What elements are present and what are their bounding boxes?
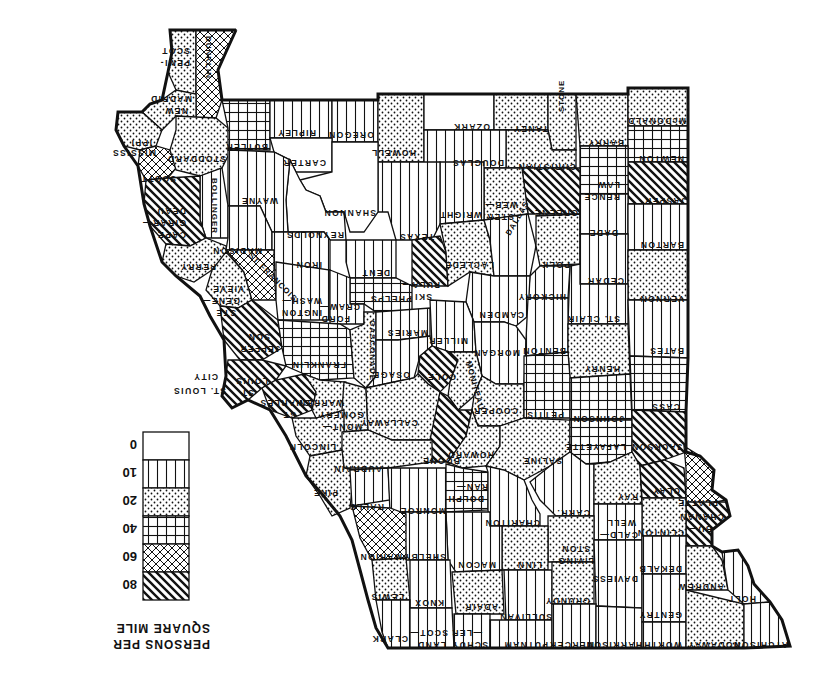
label-reynolds: REYNOLDS — [286, 230, 344, 240]
label-ran: RAN— — [455, 482, 488, 492]
label-maries: MARIES — [387, 328, 428, 338]
county-vernon[interactable] — [628, 250, 688, 300]
label-st-clair: ST. CLAIR — [567, 314, 620, 324]
label-clinton: CLINTON — [637, 528, 684, 538]
label-st-2: ST — [282, 410, 296, 420]
label-dade: DADE — [588, 228, 618, 238]
legend-swatch-80 — [143, 572, 189, 600]
label-st-1: ST — [240, 388, 254, 398]
label-stoddard: STODDARD — [167, 154, 226, 164]
label-vieve: VIEVE — [212, 284, 244, 294]
label-law: LAW— — [587, 180, 620, 190]
label-daviess: DAVIESS — [592, 574, 639, 584]
label-pike: PIKE — [313, 488, 338, 498]
county-stoddard[interactable] — [170, 116, 230, 176]
label-laclede: LACLEDE — [444, 260, 494, 270]
label-barton: BARTON — [639, 240, 684, 250]
label-iron: IRON — [295, 260, 322, 270]
county-greene[interactable] — [522, 168, 580, 214]
legend-title-line2: SQUARE MILE — [116, 621, 210, 635]
label-grundy: GRUNDY — [545, 596, 590, 606]
label-perry: PERRY — [180, 262, 216, 272]
label-scot-2: SCOT— — [409, 628, 448, 638]
label-ston: STON — [561, 544, 590, 554]
label-chariton: CHARITON — [484, 518, 540, 528]
label-lincoln: LINCOLN — [288, 442, 336, 452]
label-clay: CLAY — [652, 486, 680, 496]
county-pettis[interactable] — [524, 352, 570, 418]
label-howard: HOWARD — [447, 450, 494, 460]
county-jackson[interactable] — [632, 410, 686, 466]
label-dent: DENT — [361, 268, 390, 278]
label-osage: OSAGE — [372, 370, 410, 380]
county-franklin[interactable] — [278, 320, 354, 380]
label-nodaway: NODAWAY — [687, 640, 740, 650]
legend-label-40: 40 — [123, 521, 137, 536]
label-monroe: MONROE — [399, 506, 446, 516]
label-st-louis-city: ST. LOUIS — [173, 386, 226, 396]
label-wright: WRIGHT — [439, 210, 482, 220]
county-monroe[interactable] — [388, 468, 446, 512]
legend-swatch-20 — [143, 488, 189, 516]
legend-swatch-10 — [143, 460, 189, 488]
legend: 0 10 20 40 60 80 SQUARE MILE PERSONS PER — [112, 432, 210, 651]
label-rence: RENCE — [583, 192, 620, 202]
label-greene: GREENE — [534, 208, 578, 218]
label-macon: MACON — [457, 560, 496, 570]
label-ler: —LER — [451, 628, 482, 638]
label-scott: SCOTT — [140, 174, 176, 184]
label-louis: LOUIS — [235, 376, 268, 386]
label-ralls: RALLS — [349, 502, 384, 512]
label-cass: CASS — [651, 402, 680, 412]
label-andrew: ANDREW — [677, 582, 724, 592]
label-jeffer: JEFFER — [239, 344, 280, 354]
label-miller: MILLER — [428, 336, 468, 346]
legend-swatch-0 — [143, 432, 189, 460]
label-schuy: SCHUY — [451, 640, 488, 650]
county-pulaski[interactable] — [412, 236, 448, 286]
county-johnson[interactable] — [570, 374, 632, 420]
legend-label-80: 80 — [123, 577, 137, 592]
label-putnam: PUTNAM — [503, 640, 548, 650]
label-stone: STONE — [557, 80, 566, 112]
county-livingston[interactable] — [548, 516, 594, 562]
label-ington: INGTON — [281, 308, 322, 318]
label-marion: MARION — [359, 552, 402, 562]
label-craw: CRAW— — [319, 302, 360, 312]
label-linn: LINN — [517, 560, 542, 570]
label-shelby: SHELBY — [403, 552, 446, 562]
county-marion[interactable] — [352, 506, 406, 560]
label-cedar: CEDAR — [587, 276, 624, 286]
label-morgan: MORGAN — [473, 348, 520, 358]
label-benton: BENTON — [522, 346, 566, 356]
label-bollinger: BOLLINGER — [210, 178, 219, 234]
label-oregon: OREGON — [328, 130, 374, 140]
label-henry: HENRY — [584, 364, 620, 374]
label-city: CITY — [193, 372, 218, 382]
label-christian: CHRISTIAN — [517, 162, 576, 172]
label-gomery: GOMERY — [318, 410, 364, 420]
label-jackson: JACKSON — [631, 442, 682, 452]
label-ozark: OZARK — [453, 122, 490, 132]
label-shannon: SHANNON — [323, 208, 376, 218]
population-density-map: SCOT PEMI- DUNKLIN MADRID NEW IPPI MISSI… — [0, 0, 816, 690]
label-ippi: IPPI — [130, 138, 152, 148]
label-wash: WASH— — [281, 296, 322, 306]
county-texas[interactable] — [378, 162, 440, 240]
label-adair: ADAIR — [464, 602, 498, 612]
county-daviess[interactable] — [594, 540, 642, 608]
label-camden: CAMDEN — [478, 310, 524, 320]
legend-label-60: 60 — [123, 549, 137, 564]
label-web: WEB— — [484, 200, 518, 210]
label-howell: HOWELL — [371, 148, 416, 158]
label-vernon: VERNON — [639, 294, 684, 304]
label-dekalb: DEKALB — [638, 564, 682, 574]
label-ford: FORD — [320, 314, 350, 324]
label-carter: CARTER — [282, 158, 326, 168]
county-polk[interactable] — [536, 214, 580, 266]
legend-label-0: 0 — [130, 437, 137, 452]
label-bu: BU— — [687, 524, 712, 534]
label-barry: BARRY — [587, 138, 624, 148]
label-cole: COLE — [427, 372, 456, 382]
label-mississ: MISSISS — [112, 148, 156, 158]
